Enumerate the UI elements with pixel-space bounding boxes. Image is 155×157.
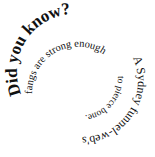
fact-line-2: fangs are strong enough: [23, 38, 109, 94]
spiral-svg: Did you know? A Sydney funnel-web's fang…: [0, 0, 155, 157]
fact-line-3: to pierce bone.: [85, 76, 126, 123]
spiral-text-graphic: Did you know? A Sydney funnel-web's fang…: [0, 0, 155, 157]
